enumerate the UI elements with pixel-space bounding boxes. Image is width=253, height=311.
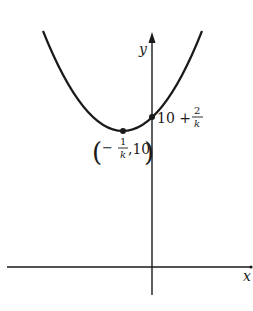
- intercept-label-numerator: 2: [194, 105, 200, 116]
- y-axis-label: y: [138, 41, 148, 57]
- x-axis-label: x: [243, 268, 251, 284]
- vertex-point: [120, 128, 126, 134]
- intercept-label-denominator: k: [194, 118, 200, 129]
- y-axis-arrow-icon: [149, 32, 156, 43]
- vertex-label-minus: −: [102, 140, 113, 155]
- vertex-label-numerator: 1: [120, 136, 126, 147]
- vertex-label-open-paren: (: [92, 137, 102, 167]
- vertex-label-close-paren: ): [144, 137, 154, 167]
- graph: y x 10 + 2 k ( − 1 k ,10 ): [0, 0, 253, 311]
- vertex-label-denominator: k: [120, 149, 126, 160]
- y-intercept-point: [149, 114, 155, 120]
- intercept-label-whole: 10 +: [157, 110, 191, 126]
